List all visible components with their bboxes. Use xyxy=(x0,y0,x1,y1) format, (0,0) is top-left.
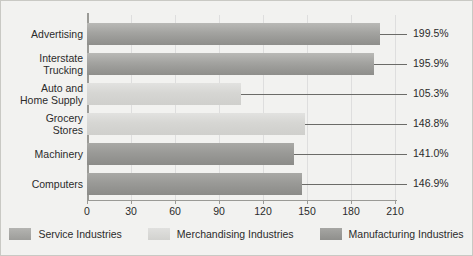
x-axis-tick-label: 90 xyxy=(213,205,225,217)
bar[interactable] xyxy=(87,173,302,195)
bar[interactable] xyxy=(87,23,380,45)
bar-value-label: 146.9% xyxy=(413,177,449,189)
x-axis-tick xyxy=(351,200,352,204)
value-leader-line xyxy=(305,124,407,125)
category-label: Machinery xyxy=(3,148,83,160)
category-label-line: Interstate xyxy=(3,52,83,64)
x-axis-tick-label: 150 xyxy=(298,205,316,217)
category-label: Auto andHome Supply xyxy=(3,82,83,106)
category-label-line: Grocery xyxy=(3,112,83,124)
category-label-line: Stores xyxy=(3,124,83,136)
chart-legend: Service IndustriesMerchandising Industri… xyxy=(1,223,472,245)
category-label-line: Auto and xyxy=(3,82,83,94)
x-axis-tick-label: 30 xyxy=(125,205,137,217)
category-label-line: Computers xyxy=(3,178,83,190)
legend-label: Manufacturing Industries xyxy=(349,228,464,240)
x-axis-tick-label: 120 xyxy=(254,205,272,217)
legend-swatch-icon xyxy=(320,228,342,240)
bar-value-label: 105.3% xyxy=(413,87,449,99)
legend-item[interactable]: Manufacturing Industries xyxy=(320,228,464,240)
bar-row: 105.3% xyxy=(87,83,395,105)
value-leader-line xyxy=(380,34,407,35)
value-leader-line xyxy=(294,154,407,155)
legend-label: Merchandising Industries xyxy=(177,228,294,240)
bar-value-label: 199.5% xyxy=(413,27,449,39)
legend-label: Service Industries xyxy=(38,228,121,240)
legend-swatch-icon xyxy=(9,228,31,240)
value-leader-line xyxy=(374,64,407,65)
legend-swatch-icon xyxy=(148,228,170,240)
x-axis-tick xyxy=(87,200,88,204)
category-label-line: Trucking xyxy=(3,64,83,76)
category-label: InterstateTrucking xyxy=(3,52,83,76)
x-axis-tick-label: 210 xyxy=(386,205,404,217)
plot-area: 199.5%195.9%105.3%148.8%141.0%146.9% xyxy=(87,17,395,199)
bar[interactable] xyxy=(87,143,294,165)
value-leader-line xyxy=(241,94,407,95)
x-axis-tick xyxy=(131,200,132,204)
bar-row: 141.0% xyxy=(87,143,395,165)
category-label: GroceryStores xyxy=(3,112,83,136)
x-axis-tick xyxy=(219,200,220,204)
category-label-line: Home Supply xyxy=(3,94,83,106)
bar[interactable] xyxy=(87,53,374,75)
bar-value-label: 141.0% xyxy=(413,147,449,159)
bar-row: 195.9% xyxy=(87,53,395,75)
gridline xyxy=(395,15,396,200)
x-axis-tick-label: 0 xyxy=(84,205,90,217)
bar-value-label: 195.9% xyxy=(413,57,449,69)
category-label: Advertising xyxy=(3,28,83,40)
category-label-line: Machinery xyxy=(3,148,83,160)
value-leader-line xyxy=(302,184,407,185)
legend-item[interactable]: Merchandising Industries xyxy=(148,228,294,240)
bar[interactable] xyxy=(87,83,241,105)
x-axis-tick xyxy=(307,200,308,204)
bar[interactable] xyxy=(87,113,305,135)
x-axis-tick-label: 60 xyxy=(169,205,181,217)
x-axis-tick xyxy=(395,200,396,204)
category-label-line: Advertising xyxy=(3,28,83,40)
bar-value-label: 148.8% xyxy=(413,117,449,129)
bar-row: 148.8% xyxy=(87,113,395,135)
bar-chart: AdvertisingInterstateTruckingAuto andHom… xyxy=(0,0,473,256)
x-axis-tick-label: 180 xyxy=(342,205,360,217)
x-axis-tick xyxy=(175,200,176,204)
x-axis-tick xyxy=(263,200,264,204)
category-label: Computers xyxy=(3,178,83,190)
legend-item[interactable]: Service Industries xyxy=(9,228,121,240)
bar-row: 146.9% xyxy=(87,173,395,195)
bar-row: 199.5% xyxy=(87,23,395,45)
category-axis-labels: AdvertisingInterstateTruckingAuto andHom… xyxy=(1,17,83,199)
